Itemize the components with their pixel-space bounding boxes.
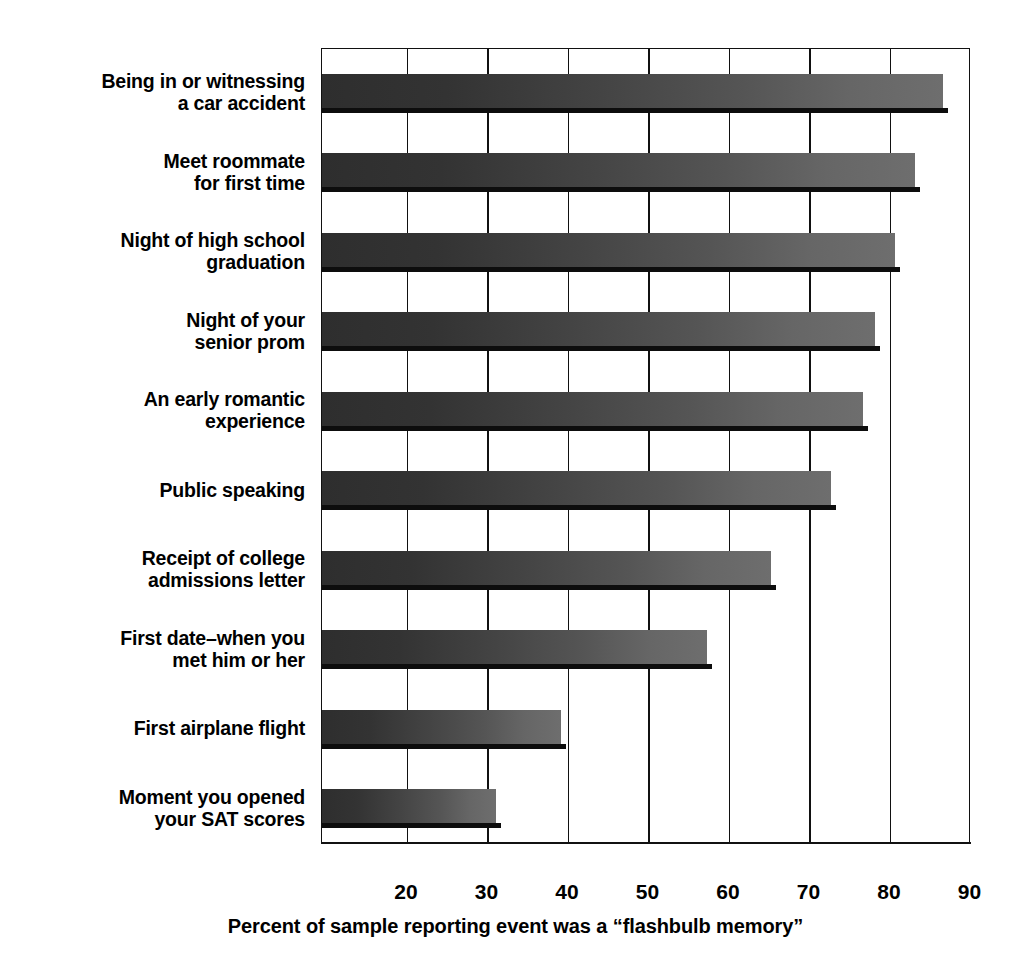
bar-row — [322, 608, 707, 688]
x-axis-line — [321, 842, 971, 844]
category-label-line1: First airplane flight — [0, 717, 305, 739]
x-axis-title: Percent of sample reporting event was a … — [0, 915, 1031, 938]
category-label-college-letter: Receipt of college admissions letter — [0, 547, 305, 591]
xtick-40: 40 — [537, 880, 597, 904]
category-label-hs-graduation: Night of high school graduation — [0, 229, 305, 273]
bar-row — [322, 290, 875, 370]
bar-first-date — [322, 630, 707, 664]
category-label-meet-roommate: Meet roommate for first time — [0, 150, 305, 194]
category-label-public-speaking: Public speaking — [0, 479, 305, 501]
category-label-line1: Moment you opened — [0, 786, 305, 808]
category-label-car-accident: Being in or witnessing a car accident — [0, 70, 305, 114]
bar-row — [322, 131, 915, 211]
bar-row — [322, 369, 863, 449]
bar-car-accident — [322, 74, 943, 108]
category-label-line1: Night of high school — [0, 229, 305, 251]
category-label-line2: senior prom — [0, 331, 305, 353]
category-label-line1: Public speaking — [0, 479, 305, 501]
xtick-70: 70 — [779, 880, 839, 904]
category-label-line2: graduation — [0, 251, 305, 273]
bar-row — [322, 687, 561, 767]
category-label-airplane-flight: First airplane flight — [0, 717, 305, 739]
category-label-line2: a car accident — [0, 92, 305, 114]
category-label-line1: First date–when you — [0, 627, 305, 649]
bar-hs-graduation — [322, 233, 895, 267]
bar-row — [322, 210, 895, 290]
xtick-60: 60 — [698, 880, 758, 904]
bar-early-romance — [322, 392, 863, 426]
category-label-line1: Receipt of college — [0, 547, 305, 569]
category-label-line2: admissions letter — [0, 569, 305, 591]
flashbulb-memory-bar-chart: Being in or witnessing a car accident Me… — [0, 0, 1031, 968]
bar-row — [322, 767, 496, 847]
bar-airplane-flight — [322, 710, 561, 744]
category-label-first-date: First date–when you met him or her — [0, 627, 305, 671]
xtick-90: 90 — [940, 880, 1000, 904]
bar-row — [322, 528, 771, 608]
category-label-line2: experience — [0, 410, 305, 432]
bar-row — [322, 449, 831, 529]
category-label-line2: for first time — [0, 172, 305, 194]
category-label-line1: An early romantic — [0, 388, 305, 410]
xtick-50: 50 — [618, 880, 678, 904]
plot-area — [321, 48, 970, 843]
xtick-20: 20 — [376, 880, 436, 904]
category-label-sat-scores: Moment you opened your SAT scores — [0, 786, 305, 830]
xtick-80: 80 — [859, 880, 919, 904]
xtick-30: 30 — [457, 880, 517, 904]
category-label-line2: your SAT scores — [0, 808, 305, 830]
category-label-line1: Being in or witnessing — [0, 70, 305, 92]
bar-meet-roommate — [322, 153, 915, 187]
bar-college-letter — [322, 551, 771, 585]
category-label-line1: Meet roommate — [0, 150, 305, 172]
bar-senior-prom — [322, 312, 875, 346]
category-label-early-romance: An early romantic experience — [0, 388, 305, 432]
bar-row — [322, 51, 943, 131]
bar-sat-scores — [322, 789, 496, 823]
category-label-senior-prom: Night of your senior prom — [0, 309, 305, 353]
bar-public-speaking — [322, 471, 831, 505]
category-label-line2: met him or her — [0, 649, 305, 671]
category-label-line1: Night of your — [0, 309, 305, 331]
